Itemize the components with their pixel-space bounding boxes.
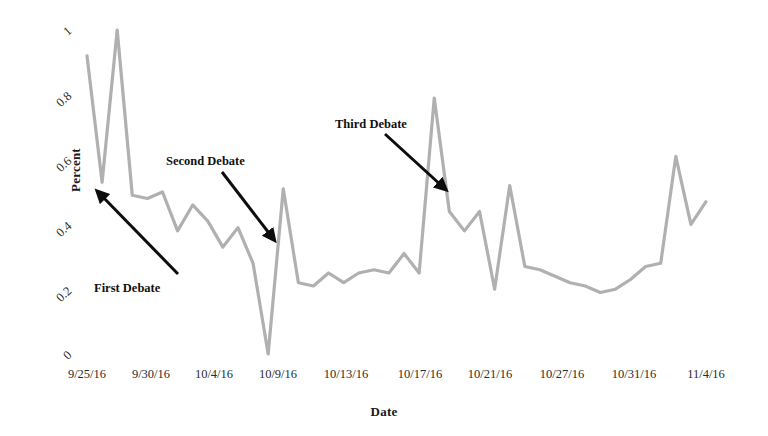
annotation-arrows — [100, 134, 443, 274]
annotation-label: First Debate — [94, 281, 160, 296]
data-series-line — [87, 30, 706, 354]
plot-area — [0, 0, 768, 436]
annotation-label: Third Debate — [335, 117, 407, 132]
annotation-label: Second Debate — [166, 154, 245, 169]
chart-figure: Percent 10.80.60.40.20 9/25/169/30/1610/… — [0, 0, 768, 436]
annotation-arrow — [222, 172, 272, 237]
annotation-arrow — [385, 134, 443, 187]
